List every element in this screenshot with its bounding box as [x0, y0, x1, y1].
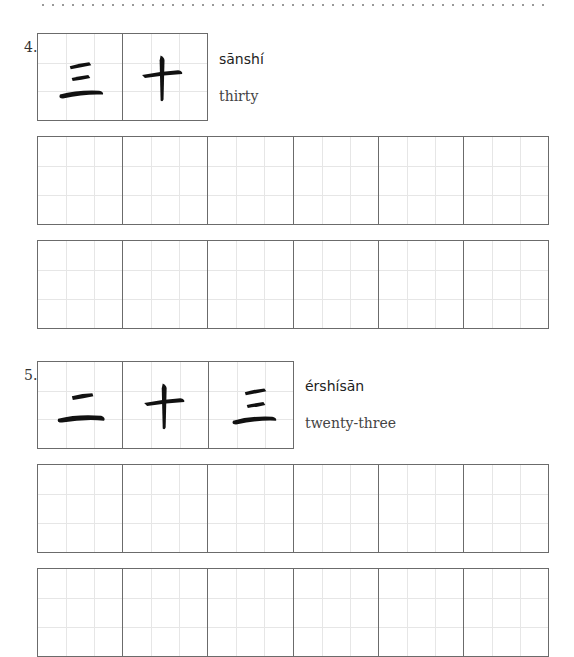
practice-row — [37, 240, 549, 329]
meaning-label: thirty — [219, 88, 258, 104]
practice-cell[interactable] — [123, 241, 208, 328]
practice-cell[interactable] — [464, 569, 548, 656]
practice-cell[interactable] — [38, 465, 123, 552]
hanzi-er-glyph — [38, 362, 122, 448]
hanzi-san-glyph — [209, 362, 293, 448]
hanzi-shi-glyph — [123, 362, 207, 448]
practice-cell[interactable] — [38, 241, 123, 328]
practice-cell[interactable] — [38, 137, 123, 224]
character-display-box — [37, 361, 294, 449]
practice-row — [37, 136, 549, 225]
practice-cell[interactable] — [38, 569, 123, 656]
pinyin-label: sānshí — [219, 51, 264, 67]
practice-cell[interactable] — [123, 465, 208, 552]
practice-cell[interactable] — [379, 569, 464, 656]
practice-cell[interactable] — [379, 465, 464, 552]
character-cell — [123, 34, 207, 120]
hanzi-shi-glyph — [123, 34, 207, 120]
pinyin-label: érshísān — [305, 378, 364, 394]
practice-cell[interactable] — [464, 137, 548, 224]
meaning-label: twenty-three — [305, 415, 396, 431]
item-number: 5. — [24, 367, 37, 383]
practice-cell[interactable] — [294, 569, 379, 656]
practice-cell[interactable] — [379, 241, 464, 328]
dotted-separator — [38, 4, 550, 6]
practice-cell[interactable] — [464, 465, 548, 552]
practice-cell[interactable] — [123, 137, 208, 224]
practice-cell[interactable] — [294, 465, 379, 552]
practice-cell[interactable] — [123, 569, 208, 656]
item-number: 4. — [24, 39, 37, 55]
practice-cell[interactable] — [464, 241, 548, 328]
practice-row — [37, 464, 549, 553]
character-cell — [123, 362, 208, 448]
character-cell — [209, 362, 293, 448]
practice-cell[interactable] — [208, 465, 293, 552]
practice-cell[interactable] — [294, 241, 379, 328]
practice-cell[interactable] — [208, 241, 293, 328]
practice-cell[interactable] — [208, 137, 293, 224]
character-cell — [38, 362, 123, 448]
character-display-box — [37, 33, 208, 121]
hanzi-san-glyph — [38, 34, 122, 120]
practice-row — [37, 568, 549, 657]
practice-cell[interactable] — [294, 137, 379, 224]
practice-cell[interactable] — [379, 137, 464, 224]
character-cell — [38, 34, 123, 120]
practice-cell[interactable] — [208, 569, 293, 656]
